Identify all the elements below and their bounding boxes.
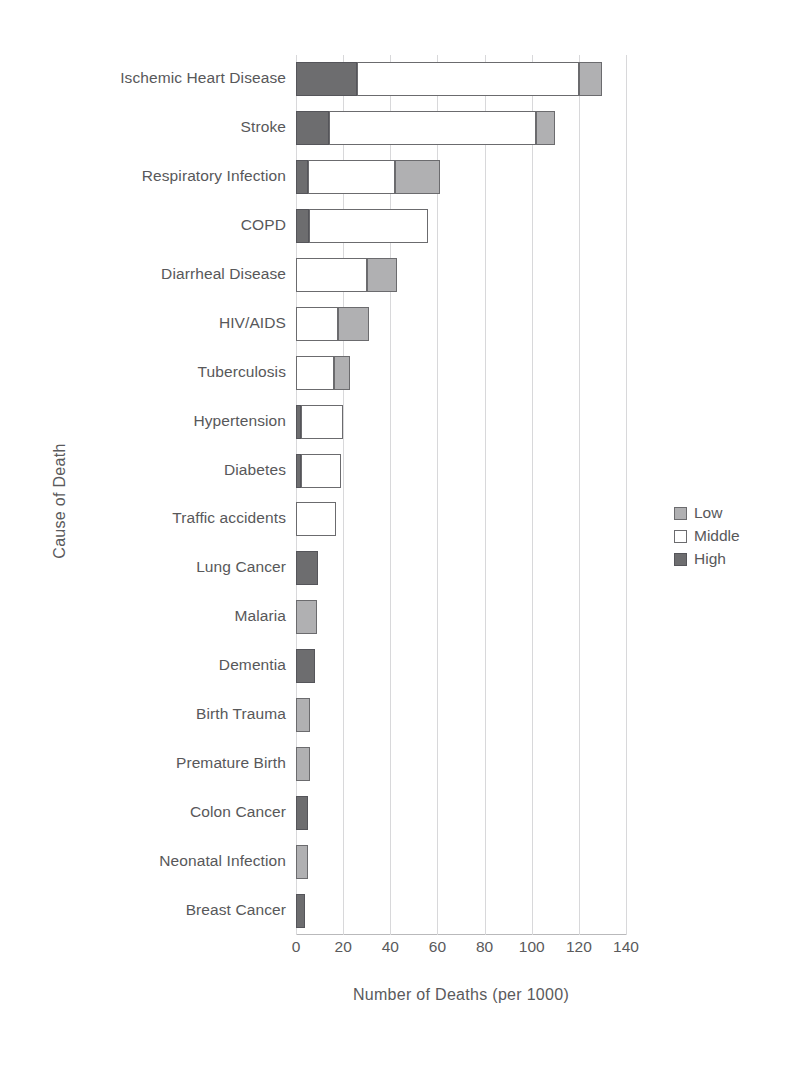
y-axis-category-labels: Ischemic Heart DiseaseStrokeRespiratory … <box>36 55 286 935</box>
x-axis-tick-labels: 020406080100120140 <box>296 938 626 962</box>
bar-row[interactable] <box>296 796 308 830</box>
legend-item-low[interactable]: Low <box>674 502 784 524</box>
legend-label: Low <box>694 504 722 522</box>
category-label: Diabetes <box>36 461 286 479</box>
gridline <box>532 55 533 935</box>
category-label: HIV/AIDS <box>36 314 286 332</box>
bar-segment-low[interactable] <box>367 258 398 292</box>
bar-segment-middle[interactable] <box>308 160 395 194</box>
bar-row[interactable] <box>296 307 369 341</box>
bar-row[interactable] <box>296 649 315 683</box>
bar-row[interactable] <box>296 209 428 243</box>
legend-label: High <box>694 550 726 568</box>
x-tick-label: 100 <box>519 938 545 956</box>
x-tick-label: 120 <box>566 938 592 956</box>
x-tick-label: 140 <box>613 938 639 956</box>
category-label: Birth Trauma <box>36 705 286 723</box>
bar-segment-low[interactable] <box>579 62 603 96</box>
bar-row[interactable] <box>296 747 310 781</box>
legend-item-high[interactable]: High <box>674 548 784 570</box>
bar-segment-low[interactable] <box>296 845 308 879</box>
bar-row[interactable] <box>296 551 318 585</box>
x-tick-label: 60 <box>429 938 446 956</box>
category-label: Stroke <box>36 118 286 136</box>
bar-segment-high[interactable] <box>296 209 309 243</box>
bar-row[interactable] <box>296 111 555 145</box>
bar-segment-high[interactable] <box>296 649 315 683</box>
bar-row[interactable] <box>296 502 336 536</box>
category-label: Premature Birth <box>36 754 286 772</box>
middle-swatch <box>674 530 687 543</box>
x-tick-label: 40 <box>382 938 399 956</box>
bar-segment-middle[interactable] <box>296 356 334 390</box>
bar-segment-low[interactable] <box>395 160 440 194</box>
bar-segment-middle[interactable] <box>329 111 536 145</box>
category-label: Dementia <box>36 656 286 674</box>
bar-segment-high[interactable] <box>296 62 357 96</box>
gridline <box>626 55 627 935</box>
category-label: Hypertension <box>36 412 286 430</box>
x-axis-line <box>296 934 626 935</box>
bar-chart: Cause of Death Ischemic Heart DiseaseStr… <box>0 0 788 1068</box>
bar-row[interactable] <box>296 845 308 879</box>
category-label: Malaria <box>36 607 286 625</box>
bar-segment-low[interactable] <box>296 747 310 781</box>
x-tick-label: 80 <box>476 938 493 956</box>
bar-segment-low[interactable] <box>296 600 317 634</box>
bar-row[interactable] <box>296 454 341 488</box>
bar-segment-high[interactable] <box>296 111 329 145</box>
high-swatch <box>674 553 687 566</box>
category-label: Lung Cancer <box>36 558 286 576</box>
x-axis-title: Number of Deaths (per 1000) <box>296 986 626 1004</box>
category-label: Diarrheal Disease <box>36 265 286 283</box>
category-label: Traffic accidents <box>36 509 286 527</box>
x-tick-label: 0 <box>292 938 301 956</box>
bar-row[interactable] <box>296 62 602 96</box>
bar-segment-low[interactable] <box>296 698 310 732</box>
bar-segment-middle[interactable] <box>309 209 428 243</box>
category-label: Respiratory Infection <box>36 167 286 185</box>
bar-segment-high[interactable] <box>296 894 305 928</box>
category-label: Tuberculosis <box>36 363 286 381</box>
bar-row[interactable] <box>296 698 310 732</box>
bar-segment-middle[interactable] <box>357 62 579 96</box>
bar-segment-low[interactable] <box>536 111 555 145</box>
x-tick-label: 20 <box>335 938 352 956</box>
low-swatch <box>674 507 687 520</box>
legend-label: Middle <box>694 527 740 545</box>
bar-segment-middle[interactable] <box>296 502 336 536</box>
category-label: Ischemic Heart Disease <box>36 69 286 87</box>
chart-legend: LowMiddleHigh <box>674 502 784 571</box>
legend-item-middle[interactable]: Middle <box>674 525 784 547</box>
bar-row[interactable] <box>296 356 350 390</box>
bar-row[interactable] <box>296 160 440 194</box>
bar-segment-high[interactable] <box>296 551 318 585</box>
bar-segment-middle[interactable] <box>301 454 341 488</box>
category-label: Colon Cancer <box>36 803 286 821</box>
bar-segment-high[interactable] <box>296 160 308 194</box>
bar-segment-middle[interactable] <box>296 307 338 341</box>
bar-segment-middle[interactable] <box>301 405 343 439</box>
bar-segment-low[interactable] <box>338 307 369 341</box>
category-label: Neonatal Infection <box>36 852 286 870</box>
bar-row[interactable] <box>296 600 317 634</box>
category-label: Breast Cancer <box>36 901 286 919</box>
bar-segment-middle[interactable] <box>296 258 367 292</box>
bar-segment-low[interactable] <box>334 356 351 390</box>
bar-row[interactable] <box>296 894 305 928</box>
plot-area <box>296 55 626 935</box>
category-label: COPD <box>36 216 286 234</box>
bar-row[interactable] <box>296 258 397 292</box>
gridline <box>579 55 580 935</box>
gridline <box>485 55 486 935</box>
bar-row[interactable] <box>296 405 343 439</box>
bar-segment-high[interactable] <box>296 796 308 830</box>
